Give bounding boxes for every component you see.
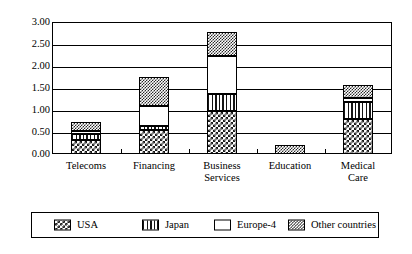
- bar-business-services: [207, 32, 237, 154]
- legend-swatch-usa: [54, 220, 71, 231]
- chart-legend: USAJapanEurope-4Other countries: [31, 212, 379, 238]
- y-axis-tick-label: 1.50: [4, 83, 50, 94]
- bar-segment-other-countries: [71, 122, 101, 131]
- y-axis-tick-label: 0.50: [4, 127, 50, 138]
- x-axis-label-line: Education: [256, 160, 324, 172]
- x-axis-category-labels: TelecomsFinancingBusinessServicesEducati…: [52, 160, 392, 192]
- legend-item-other-countries[interactable]: Other countries: [288, 220, 376, 231]
- bar-segment-usa: [207, 111, 237, 154]
- x-axis-label-line: Financing: [120, 160, 188, 172]
- bar-segment-europe-4: [343, 98, 373, 102]
- bar-segment-japan: [139, 126, 169, 130]
- x-axis-label-financing: Financing: [120, 160, 188, 172]
- bar-medical-care: [343, 84, 373, 154]
- legend-label: Other countries: [311, 220, 376, 231]
- legend-label: USA: [77, 220, 98, 231]
- bar-segment-usa: [139, 130, 169, 154]
- legend-item-usa[interactable]: USA: [54, 220, 98, 231]
- bar-financing: [139, 77, 169, 154]
- bars-layer: [52, 22, 392, 154]
- bar-segment-other-countries: [207, 32, 237, 56]
- bar-segment-japan: [343, 102, 373, 119]
- stacked-bar-chart: 3.002.502.001.501.000.500.00 TelecomsFin…: [0, 0, 412, 254]
- y-axis-tick-label: 1.00: [4, 105, 50, 116]
- x-axis-label-telecoms: Telecoms: [52, 160, 120, 172]
- legend-swatch-japan: [142, 220, 159, 231]
- x-axis-label-line: Business: [188, 160, 256, 172]
- y-axis-tick-label: 2.50: [4, 39, 50, 50]
- x-axis-label-line: Care: [324, 172, 392, 184]
- legend-label: Japan: [165, 220, 189, 231]
- x-axis-label-line: Services: [188, 172, 256, 184]
- bar-segment-europe-4: [71, 131, 101, 135]
- x-axis-label-education: Education: [256, 160, 324, 172]
- bar-segment-usa: [343, 119, 373, 154]
- legend-item-europe-4[interactable]: Europe-4: [214, 220, 276, 231]
- bar-segment-usa: [71, 140, 101, 154]
- bar-segment-japan: [207, 94, 237, 112]
- bar-telecoms: [71, 122, 101, 154]
- bar-segment-other-countries: [343, 85, 373, 98]
- bar-segment-europe-4: [139, 106, 169, 126]
- x-axis-label-business-services: BusinessServices: [188, 160, 256, 183]
- x-axis-label-line: Telecoms: [52, 160, 120, 172]
- y-axis-tick-labels: 3.002.502.001.501.000.500.00: [0, 22, 50, 154]
- bar-segment-other-countries: [139, 77, 169, 107]
- legend-item-japan[interactable]: Japan: [142, 220, 189, 231]
- x-axis-label-medical-care: MedicalCare: [324, 160, 392, 183]
- y-axis-tick-label: 0.00: [4, 149, 50, 160]
- bar-education: [275, 145, 305, 154]
- y-axis-tick-label: 3.00: [4, 17, 50, 28]
- legend-swatch-europe-4: [214, 220, 231, 231]
- bar-segment-europe-4: [207, 56, 237, 93]
- bar-segment-other-countries: [275, 145, 305, 154]
- y-axis-tick-label: 2.00: [4, 61, 50, 72]
- legend-swatch-other-countries: [288, 220, 305, 231]
- bar-segment-japan: [71, 134, 101, 140]
- x-axis-label-line: Medical: [324, 160, 392, 172]
- legend-label: Europe-4: [237, 220, 276, 231]
